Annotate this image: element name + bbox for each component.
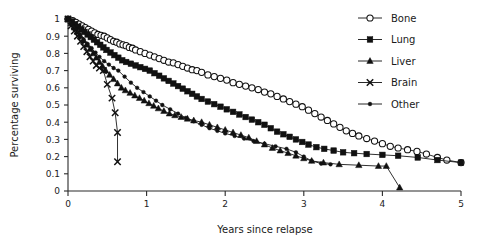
data-point-other: [302, 155, 306, 159]
data-point-lung: [380, 152, 386, 158]
data-point-other: [78, 33, 82, 37]
data-point-lung: [321, 146, 327, 152]
chart-root: 00.10.20.30.40.50.60.70.80.91 012345 Bon…: [0, 0, 483, 242]
legend-label-other: Other: [391, 99, 420, 110]
data-point-other: [274, 144, 278, 148]
data-point-lung: [274, 129, 280, 135]
data-point-bone: [331, 121, 337, 127]
data-point-other: [200, 123, 204, 127]
data-point-lung: [351, 150, 357, 156]
legend-label-brain: Brain: [391, 77, 417, 88]
x-tick-label: 4: [380, 199, 386, 209]
data-point-lung: [458, 160, 464, 166]
data-point-other: [154, 99, 158, 103]
data-point-lung: [224, 107, 230, 113]
data-point-lung: [415, 155, 421, 161]
x-tick-label: 3: [301, 199, 307, 209]
data-point-other: [135, 86, 139, 90]
data-point-other: [233, 134, 237, 138]
data-point-bone: [364, 135, 370, 141]
data-point-other: [160, 103, 164, 107]
data-point-other: [184, 116, 188, 120]
y-tick-label: 0.3: [46, 135, 60, 145]
data-point-other: [142, 90, 146, 94]
data-point-other: [329, 162, 333, 166]
data-point-lung: [331, 148, 337, 154]
x-tick-label: 0: [65, 199, 71, 209]
legend-label-lung: Lung: [391, 34, 415, 45]
data-point-bone: [404, 147, 410, 153]
data-point-bone: [230, 80, 236, 86]
x-axis-title: Years since relapse: [216, 224, 312, 235]
y-tick-label: 0.1: [46, 169, 60, 179]
data-point-bone: [299, 104, 305, 110]
data-point-other: [74, 27, 78, 31]
data-point-other: [102, 59, 106, 63]
data-point-lung: [249, 117, 255, 123]
data-point-other: [66, 17, 70, 21]
data-point-other: [285, 147, 289, 151]
data-point-lung: [268, 125, 274, 131]
x-tick-label: 2: [222, 199, 228, 209]
data-point-lung: [395, 153, 401, 159]
data-point-bone: [312, 111, 318, 117]
y-tick-label: 0.4: [46, 118, 61, 128]
data-point-bone: [423, 151, 429, 157]
data-point-other: [242, 137, 246, 141]
data-point-lung: [262, 122, 268, 128]
data-point-bone: [318, 114, 324, 120]
data-point-lung: [314, 144, 320, 150]
data-point-other: [123, 75, 127, 79]
data-point-bone: [249, 85, 255, 91]
x-tick-label: 5: [458, 199, 464, 209]
data-point-other: [294, 150, 298, 154]
data-point-other: [90, 46, 94, 50]
data-point-other: [94, 51, 98, 55]
data-point-lung: [199, 96, 205, 102]
data-point-other: [263, 142, 267, 146]
data-point-bone: [205, 72, 211, 78]
data-point-bone: [387, 143, 393, 149]
x-tick-label: 1: [144, 199, 150, 209]
data-point-bone: [305, 107, 311, 113]
data-point-bone: [287, 98, 293, 104]
data-point-other: [310, 159, 314, 163]
data-point-bone: [261, 89, 267, 95]
data-point-lung: [281, 131, 287, 137]
data-point-bone: [199, 69, 205, 75]
data-point-lung: [218, 104, 224, 110]
data-point-other: [176, 112, 180, 116]
data-point-bone: [211, 74, 217, 80]
y-tick-label: 0.5: [46, 100, 60, 110]
y-tick-label: 0.2: [46, 152, 60, 162]
data-point-lung: [340, 150, 346, 156]
data-point-other: [223, 131, 227, 135]
data-point-other: [112, 66, 116, 70]
data-point-other: [86, 42, 90, 46]
data-point-other: [319, 162, 323, 166]
data-point-other: [107, 63, 111, 67]
data-point-bone: [349, 130, 355, 136]
data-point-bone: [268, 91, 274, 97]
data-point-other: [148, 95, 152, 99]
legend-marker-lung: [367, 37, 373, 43]
data-point-bone: [371, 138, 377, 144]
y-tick-label: 0: [54, 186, 60, 196]
data-point-bone: [414, 148, 420, 154]
legend-marker-other: [368, 102, 372, 106]
data-point-lung: [293, 137, 299, 143]
data-point-lung: [255, 119, 261, 125]
data-point-bone: [280, 96, 286, 102]
data-point-bone: [236, 81, 242, 87]
data-point-lung: [230, 109, 236, 115]
legend-label-liver: Liver: [391, 56, 416, 67]
data-point-other: [208, 126, 212, 130]
data-point-bone: [324, 117, 330, 123]
y-tick-label: 1: [54, 14, 60, 24]
data-point-other: [82, 38, 86, 42]
data-point-bone: [356, 133, 362, 139]
y-axis-title: Percentage surviving: [9, 52, 20, 157]
data-point-lung: [299, 139, 305, 145]
data-point-bone: [395, 145, 401, 151]
legend-marker-bone: [367, 15, 373, 21]
